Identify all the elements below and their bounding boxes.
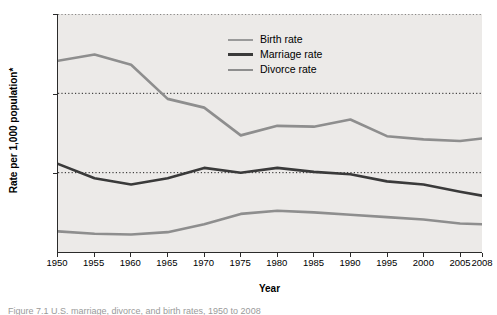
legend-swatch xyxy=(228,69,253,71)
x-tick-label: 1980 xyxy=(257,258,297,268)
legend-item: Divorce rate xyxy=(228,63,322,76)
x-tick-mark xyxy=(387,253,388,257)
figure-caption: Figure 7.1 U.S. marriage, divorce, and b… xyxy=(8,306,428,315)
x-tick-label: 1960 xyxy=(110,258,150,268)
x-tick-mark xyxy=(460,253,461,257)
x-tick-label: 1975 xyxy=(220,258,260,268)
x-tick-mark xyxy=(350,253,351,257)
x-tick-mark xyxy=(423,253,424,257)
x-tick-mark xyxy=(57,253,58,257)
legend-swatch xyxy=(228,53,253,56)
x-tick-mark xyxy=(167,253,168,257)
x-tick-mark xyxy=(277,253,278,257)
series-lines xyxy=(58,54,482,234)
chart-legend: Birth rateMarriage rateDivorce rate xyxy=(228,33,322,76)
legend-item: Birth rate xyxy=(228,33,322,46)
x-tick-label: 1965 xyxy=(147,258,187,268)
y-axis-title: Rate per 1,000 population* xyxy=(8,3,24,258)
series-line xyxy=(58,164,482,196)
x-tick-label: 1990 xyxy=(330,258,370,268)
x-axis-title: Year xyxy=(57,283,482,294)
x-tick-mark xyxy=(240,253,241,257)
legend-item: Marriage rate xyxy=(228,48,322,61)
x-tick-label: 1970 xyxy=(184,258,224,268)
legend-label: Divorce rate xyxy=(260,64,317,75)
x-tick-label: 2000 xyxy=(403,258,443,268)
y-tick-mark xyxy=(53,14,57,15)
x-tick-mark xyxy=(94,253,95,257)
x-tick-mark xyxy=(204,253,205,257)
legend-label: Marriage rate xyxy=(260,49,322,60)
x-tick-mark xyxy=(130,253,131,257)
x-tick-mark xyxy=(482,253,483,257)
legend-swatch xyxy=(228,39,253,41)
x-tick-label: 1995 xyxy=(367,258,407,268)
legend-label: Birth rate xyxy=(260,34,303,45)
x-tick-label: 2008 xyxy=(462,258,497,268)
x-tick-label: 1955 xyxy=(74,258,114,268)
y-tick-mark xyxy=(53,173,57,174)
x-tick-label: 1985 xyxy=(293,258,333,268)
y-tick-mark xyxy=(53,94,57,95)
x-tick-label: 1950 xyxy=(37,258,77,268)
series-line xyxy=(58,211,482,235)
x-tick-mark xyxy=(313,253,314,257)
